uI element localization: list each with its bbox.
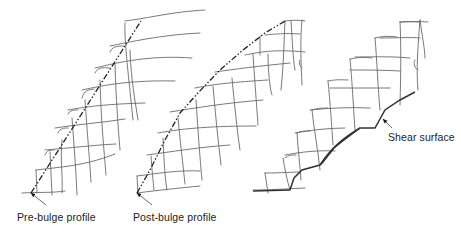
post-bulge-profile-line xyxy=(137,21,285,193)
shear-surface-label: Shear surface xyxy=(388,131,455,143)
post-bulge-profile-label: Post-bulge profile xyxy=(133,211,217,223)
shear-base-line xyxy=(253,190,290,191)
shear-surface-branch xyxy=(320,128,360,165)
pre-bulge-profile-line xyxy=(31,21,141,193)
diagram-figure: Pre-bulge profile Post-bulge profile She… xyxy=(0,0,461,235)
post-bulge-grid xyxy=(137,20,305,193)
pre-bulge-arrow xyxy=(31,193,46,205)
shear-grid xyxy=(253,20,428,193)
shear-surface-arrow xyxy=(383,119,392,128)
pre-bulge-grid xyxy=(22,10,205,195)
diagram-canvas xyxy=(0,0,461,235)
post-bulge-arrow xyxy=(137,193,152,205)
pre-bulge-profile-label: Pre-bulge profile xyxy=(17,211,96,223)
